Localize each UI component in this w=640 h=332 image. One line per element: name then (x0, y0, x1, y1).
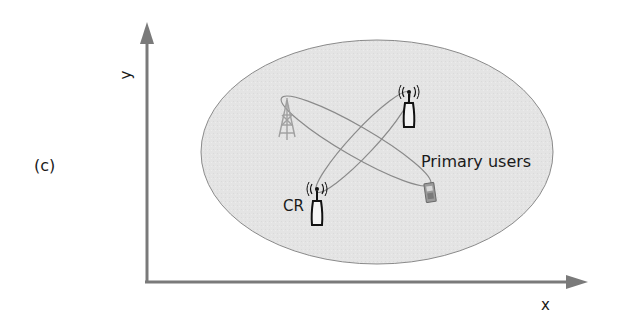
diagram-canvas (0, 0, 640, 332)
x-axis (145, 275, 588, 289)
primary-users-label: Primary users (421, 152, 531, 171)
panel-label: (c) (34, 156, 55, 175)
cr-label: CR (283, 197, 304, 215)
y-axis-label: y (117, 71, 135, 80)
y-axis (140, 22, 154, 283)
mobile-phone-icon (424, 182, 437, 202)
x-axis-label: x (541, 296, 550, 314)
